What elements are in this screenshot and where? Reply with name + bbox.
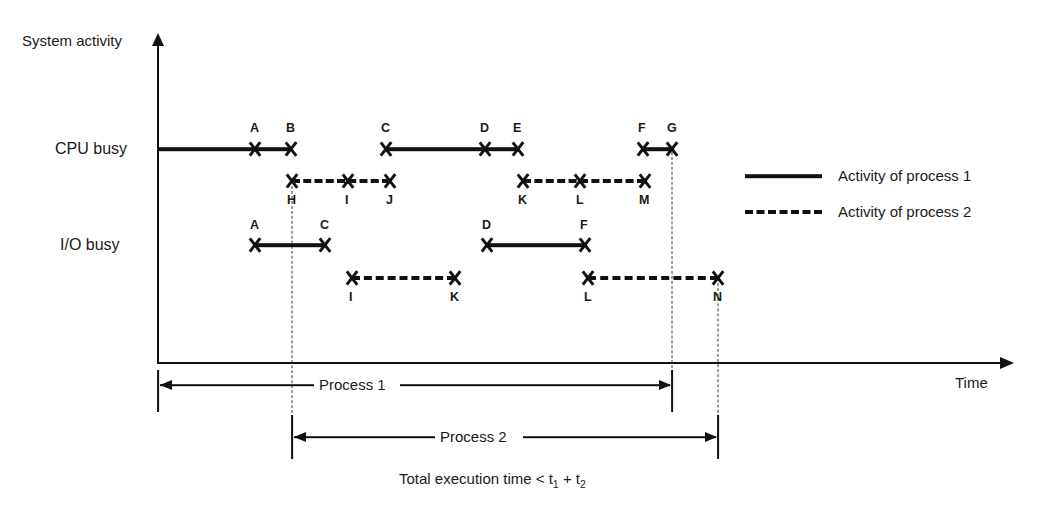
marker-cpu-process2-K [515, 173, 532, 190]
y-axis-label: System activity [22, 33, 122, 48]
x-axis-label: Time [955, 375, 988, 390]
marker-label-cpu-process2-H: H [287, 194, 296, 207]
marker-cpu-process2-H [284, 173, 301, 190]
marker-label-cpu-process1-D: D [480, 122, 489, 135]
process-2-arrow-left [294, 432, 306, 442]
process-1-arrow-left [160, 380, 172, 390]
io-process2-segment-I-K [352, 276, 455, 280]
marker-label-io-process2-I: I [349, 291, 353, 304]
marker-label-cpu-process2-J: J [386, 194, 393, 207]
row-label-cpu-busy: CPU busy [55, 141, 127, 157]
marker-label-cpu-process1-A: A [250, 122, 259, 135]
marker-label-io-process1-C: C [320, 219, 329, 232]
marker-label-cpu-process2-M: M [639, 194, 650, 207]
note-plus-operator: + [563, 470, 572, 487]
process-2-end-tick [717, 415, 719, 459]
marker-cpu-process2-I [340, 173, 357, 190]
total-execution-time-note: Total execution time < t1 + t2 [399, 471, 586, 490]
legend-label-process-2: Activity of process 2 [838, 204, 971, 219]
process-2-rule-left [294, 436, 439, 438]
marker-cpu-process1-G [664, 141, 681, 158]
y-axis-line [157, 45, 159, 363]
io-process2-segment-L-N [588, 276, 718, 280]
note-prefix: Total execution time [399, 470, 536, 487]
marker-cpu-process2-L [572, 173, 589, 190]
marker-label-cpu-process2-K: K [518, 194, 527, 207]
marker-cpu-process1-A [247, 141, 264, 158]
marker-io-process1-C [317, 237, 334, 254]
x-axis-arrowhead [1000, 357, 1014, 369]
marker-label-cpu-process1-G: G [667, 122, 677, 135]
marker-label-cpu-process1-B: B [286, 122, 295, 135]
marker-io-process1-A [247, 237, 264, 254]
io-process1-segment-D-F [487, 243, 585, 247]
marker-cpu-process1-F [635, 141, 652, 158]
process-1-label: Process 1 [314, 377, 391, 392]
timing-diagram-figure: System activity Time CPU busy I/O busy A… [0, 0, 1054, 517]
marker-label-io-process2-N: N [713, 291, 722, 304]
process-2-start-tick [291, 415, 293, 459]
marker-cpu-process1-D [477, 141, 494, 158]
note-term-2-subscript: 2 [580, 478, 586, 490]
io-process1-segment-A-C [255, 243, 325, 247]
marker-label-io-process1-A: A [250, 219, 259, 232]
note-relation: < [536, 470, 545, 487]
marker-io-process2-I [344, 270, 361, 287]
marker-label-cpu-process1-C: C [381, 122, 390, 135]
marker-cpu-process2-M [637, 173, 654, 190]
process-1-arrow-right [659, 380, 671, 390]
marker-label-io-process2-K: K [450, 291, 459, 304]
marker-cpu-process1-E [510, 141, 527, 158]
legend-swatch-process-2 [745, 210, 822, 214]
marker-io-process2-L [580, 270, 597, 287]
process-1-end-tick [671, 370, 673, 412]
marker-label-cpu-process2-I: I [345, 194, 349, 207]
marker-io-process1-D [479, 237, 496, 254]
guide-line-h [292, 186, 293, 438]
marker-cpu-process2-J [382, 173, 399, 190]
process-2-label: Process 2 [435, 429, 512, 444]
marker-label-cpu-process1-E: E [513, 122, 522, 135]
process-1-rule-left [160, 384, 318, 386]
marker-label-io-process1-F: F [580, 219, 588, 232]
marker-label-io-process2-L: L [584, 291, 592, 304]
process-2-rule-right [523, 436, 716, 438]
marker-io-process2-K [447, 270, 464, 287]
guide-line-g [672, 152, 673, 393]
note-term-1-subscript: 1 [553, 478, 559, 490]
cpu-process1-segment-origin-B [158, 147, 291, 151]
marker-label-cpu-process1-F: F [638, 122, 646, 135]
process-1-start-tick [157, 370, 159, 412]
marker-cpu-process1-C [378, 141, 395, 158]
marker-label-cpu-process2-L: L [576, 194, 584, 207]
marker-label-io-process1-D: D [482, 219, 491, 232]
marker-io-process1-F [577, 237, 594, 254]
marker-io-process2-N [710, 270, 727, 287]
process-1-rule-right [400, 384, 670, 386]
cpu-process1-segment-C-E [386, 147, 518, 151]
row-label-io-busy: I/O busy [60, 237, 120, 253]
legend-swatch-process-1 [745, 174, 822, 178]
legend-label-process-1: Activity of process 1 [838, 168, 971, 183]
process-2-arrow-right [705, 432, 717, 442]
marker-cpu-process1-B [283, 141, 300, 158]
x-axis-line [157, 362, 1005, 364]
